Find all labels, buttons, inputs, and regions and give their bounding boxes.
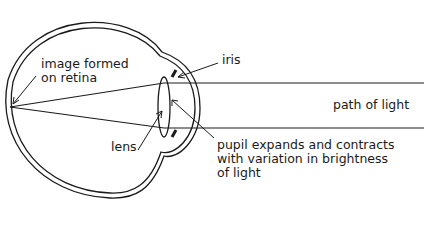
- label-path-of-light: path of light: [333, 98, 409, 112]
- iris-top: [172, 70, 176, 77]
- label-lens: lens: [111, 140, 137, 154]
- label-image-formed-on-retina: image formed on retina: [41, 57, 129, 85]
- label-pupil: pupil expands and contracts with variati…: [217, 138, 394, 180]
- iris-bottom: [172, 130, 176, 137]
- label-iris: iris: [222, 53, 241, 67]
